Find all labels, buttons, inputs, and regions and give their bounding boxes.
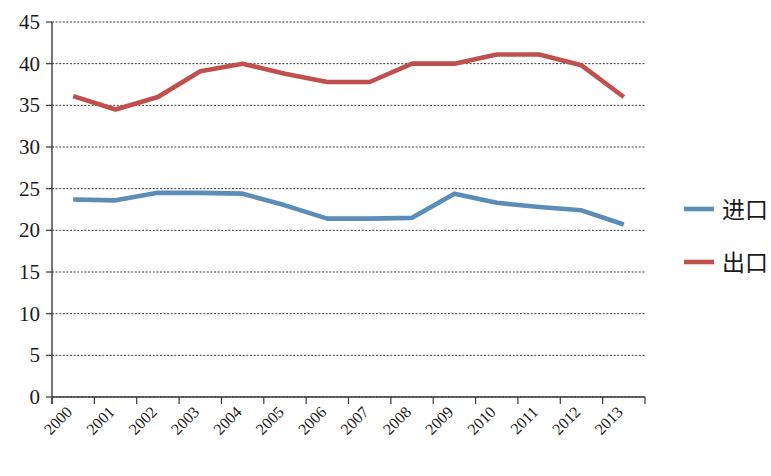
x-axis-tick-label: 2013 <box>591 403 626 438</box>
series-line-出口 <box>73 55 624 110</box>
x-axis-tick-label: 2004 <box>210 403 245 438</box>
x-axis-tick-label: 2010 <box>464 403 499 438</box>
x-axis-tick-label: 2009 <box>422 403 457 438</box>
y-axis-tick-label: 30 <box>19 135 40 159</box>
x-axis-tick-label: 2000 <box>41 403 76 438</box>
x-axis-tick-label: 2006 <box>295 403 330 438</box>
chart-canvas: 051015202530354045 200020012002200320042… <box>0 0 771 476</box>
x-axis-tickmarks <box>52 397 645 404</box>
x-axis-tick-label: 2005 <box>252 403 287 438</box>
chart-legend: 进口出口 <box>684 198 768 276</box>
y-axis-tick-label: 20 <box>19 218 40 242</box>
line-chart: 051015202530354045 200020012002200320042… <box>0 0 771 476</box>
y-axis-tick-label: 35 <box>19 93 40 117</box>
x-axis-tick-label: 2003 <box>168 403 203 438</box>
y-axis-tick-label: 0 <box>30 385 41 409</box>
y-axis-tick-label: 25 <box>19 177 40 201</box>
x-axis-tick-labels: 2000200120022003200420052006200720082009… <box>41 403 626 438</box>
y-axis-tick-label: 40 <box>19 52 40 76</box>
x-axis-tick-label: 2012 <box>549 403 584 438</box>
legend-label-进口: 进口 <box>722 198 768 223</box>
data-series-group <box>73 55 624 225</box>
y-axis-tick-label: 5 <box>30 343 41 367</box>
legend-label-出口: 出口 <box>722 251 768 276</box>
y-axis-tick-label: 10 <box>19 302 40 326</box>
y-axis-tick-labels: 051015202530354045 <box>19 10 40 409</box>
x-axis-tick-label: 2008 <box>380 403 415 438</box>
y-axis-tick-label: 45 <box>19 10 40 34</box>
series-line-进口 <box>73 193 624 225</box>
x-axis-tick-label: 2007 <box>337 403 372 438</box>
x-axis-tick-label: 2002 <box>125 403 160 438</box>
x-axis-tick-label: 2011 <box>507 403 541 437</box>
x-axis-tick-label: 2001 <box>83 403 118 438</box>
y-axis-tick-label: 15 <box>19 260 40 284</box>
